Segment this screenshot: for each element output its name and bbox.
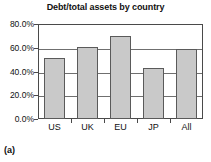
y-tick-label: 40.0%: [0, 67, 34, 77]
x-tick-label: JP: [137, 122, 170, 132]
bar-chart-figure: Debt/total assets by country 80.0%60.0%4…: [0, 0, 211, 162]
y-tick-mark: [34, 72, 38, 73]
x-tick-mark: [71, 119, 72, 123]
x-axis: USUKEUJPAll: [38, 122, 203, 136]
bar-eu: [110, 36, 131, 119]
bar-slot: [176, 24, 197, 119]
y-tick-label: 20.0%: [0, 90, 34, 100]
x-tick-label: US: [38, 122, 71, 132]
figure-caption: (a): [4, 145, 15, 155]
y-tick-mark: [34, 119, 38, 120]
bar-series: [38, 24, 203, 119]
y-tick-label: 0.0%: [0, 114, 34, 124]
x-tick-mark: [104, 119, 105, 123]
y-axis: 80.0%60.0%40.0%20.0%0.0%: [0, 0, 34, 162]
bar-slot: [143, 24, 164, 119]
bar-jp: [143, 68, 164, 119]
bar-slot: [77, 24, 98, 119]
x-tick-label: All: [170, 122, 203, 132]
bar-uk: [77, 47, 98, 119]
x-tick-label: EU: [104, 122, 137, 132]
bar-us: [44, 58, 65, 119]
y-tick-label: 60.0%: [0, 43, 34, 53]
x-tick-mark: [170, 119, 171, 123]
x-tick-mark: [137, 119, 138, 123]
y-tick-mark: [34, 48, 38, 49]
bar-slot: [110, 24, 131, 119]
y-tick-mark: [34, 24, 38, 25]
y-tick-mark: [34, 95, 38, 96]
bar-slot: [44, 24, 65, 119]
x-tick-label: UK: [71, 122, 104, 132]
y-tick-label: 80.0%: [0, 19, 34, 29]
bar-all: [176, 49, 197, 119]
